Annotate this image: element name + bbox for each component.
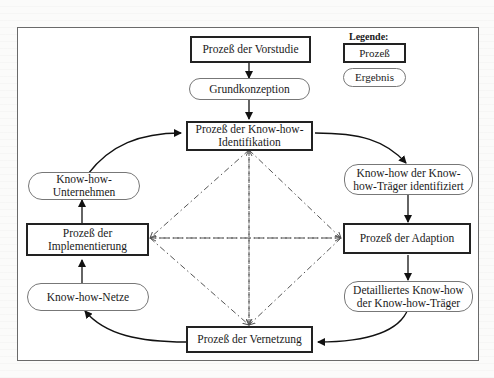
legend-result-label: Ergebnis bbox=[355, 71, 394, 84]
process-vernetzung: Prozeß der Vernetzung bbox=[186, 326, 313, 353]
legend-process-label: Prozeß bbox=[359, 47, 390, 60]
process-adaption: Prozeß der Adaption bbox=[343, 223, 471, 254]
result-know-how-unternehmen: Know-how-Unternehmen bbox=[28, 172, 140, 200]
result-know-how-traeger-identifiziert: Know-how der Know- how-Träger identifizi… bbox=[344, 164, 473, 195]
dash-dot-diamond bbox=[150, 150, 341, 325]
result-know-how-netze: Know-how-Netze bbox=[27, 283, 149, 311]
process-implementierung: Prozeß der Implementierung bbox=[26, 223, 149, 256]
process-know-how-identifikation: Prozeß der Know-how- Identifikation bbox=[186, 121, 313, 151]
legend-result-box: Ergebnis bbox=[343, 68, 406, 87]
result-grundkonzeption: Grundkonzeption bbox=[189, 78, 310, 100]
legend-title: Legende: bbox=[349, 31, 388, 42]
legend-process-box: Prozeß bbox=[343, 43, 406, 63]
process-vorstudie: Prozeß der Vorstudie bbox=[190, 36, 311, 63]
result-detailliertes-know-how: Detailliertes Know-how der Know-how-Träg… bbox=[344, 281, 473, 312]
